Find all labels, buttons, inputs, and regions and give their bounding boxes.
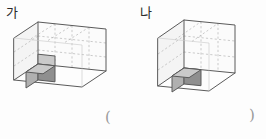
answer-open-paren: ( bbox=[105, 110, 111, 125]
na-front-face bbox=[184, 20, 235, 73]
answer-close-paren: ) bbox=[249, 108, 255, 123]
figure-label-na: 나 bbox=[140, 6, 152, 19]
problem-figure-canvas: 가 bbox=[0, 0, 266, 139]
figure-ga-solid bbox=[14, 18, 118, 100]
figure-na-solid bbox=[158, 12, 244, 102]
